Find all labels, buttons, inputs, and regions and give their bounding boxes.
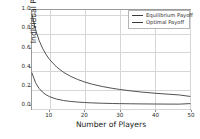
legend-swatch-icon — [132, 15, 143, 16]
chart-figure: 10 20 30 40 50 0.0 0.2 0.4 0.6 0.8 1.0 N… — [0, 0, 200, 139]
gridline-y — [32, 109, 190, 110]
legend-label: Equilibrium Payoff — [146, 13, 193, 18]
xtick-label: 30 — [116, 113, 123, 119]
legend-item-optimal-payoff: Optimal Payoff — [131, 19, 187, 26]
xtick-label: 10 — [45, 113, 52, 119]
xtick-label: 20 — [81, 113, 88, 119]
xtick-label: 50 — [187, 113, 194, 119]
xtick-label: 40 — [152, 113, 159, 119]
line-optimal-payoff — [32, 73, 190, 104]
ytick-label: 0.0 — [22, 102, 31, 108]
x-axis-title: Number of Players — [31, 121, 191, 129]
legend-swatch-icon — [132, 22, 143, 23]
y-axis-title-wrap: Individual Payoff — [4, 9, 14, 110]
chart-legend: Equilibrium Payoff Optimal Payoff — [128, 10, 190, 30]
legend-label: Optimal Payoff — [146, 20, 184, 25]
ytick-label: 0.2 — [22, 83, 31, 89]
y-axis-title: Individual Payoff — [30, 0, 38, 72]
gridline-x — [190, 10, 191, 109]
